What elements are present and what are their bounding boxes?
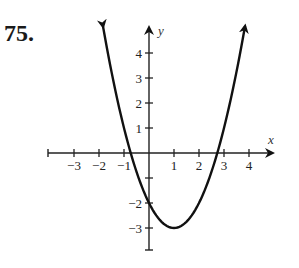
y-tick-label: −2 bbox=[128, 196, 142, 211]
x-tick-label: 1 bbox=[171, 158, 178, 173]
y-tick-label: 2 bbox=[136, 96, 143, 111]
x-axis-label: x bbox=[267, 132, 274, 147]
y-tick-label: 1 bbox=[136, 121, 143, 136]
parabola-curve bbox=[103, 26, 245, 228]
parabola-graph: x y −3−2−11234 4321−2−3 bbox=[0, 0, 299, 268]
x-tick-label: −3 bbox=[67, 158, 81, 173]
y-tick-label: 4 bbox=[136, 46, 143, 61]
x-tick-label: 2 bbox=[196, 158, 203, 173]
y-tick-label: 3 bbox=[136, 71, 143, 86]
x-tick-label: 4 bbox=[246, 158, 253, 173]
y-tick-label: −3 bbox=[128, 221, 142, 236]
x-tick-label: 3 bbox=[221, 158, 228, 173]
x-tick-label: −2 bbox=[92, 158, 106, 173]
y-axis-label: y bbox=[156, 23, 164, 38]
x-tick-label: −1 bbox=[117, 158, 131, 173]
